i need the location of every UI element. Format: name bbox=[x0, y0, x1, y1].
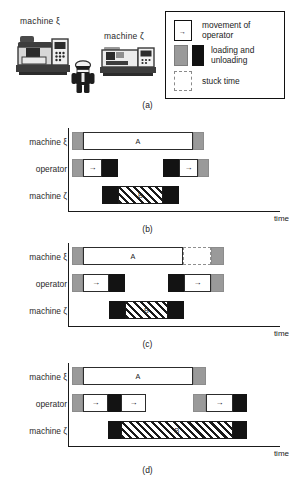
track-machine-zeta: B bbox=[72, 186, 287, 204]
x-axis-label: time bbox=[274, 449, 289, 458]
gantt-segment-label: A bbox=[84, 372, 192, 381]
gantt-segment-gray bbox=[72, 132, 83, 150]
track-machine-zeta: B bbox=[72, 301, 287, 319]
legend-label-movement-line1: movement of bbox=[202, 20, 250, 30]
x-axis-label: time bbox=[274, 329, 289, 338]
gantt-segment-gray bbox=[211, 274, 224, 292]
gantt-segment-black bbox=[108, 421, 121, 439]
gantt-segment-black bbox=[102, 159, 118, 177]
arrow-right-icon: → bbox=[84, 279, 108, 287]
arrow-right-icon: → bbox=[122, 399, 145, 407]
legend-swatch-movement: → bbox=[174, 20, 192, 41]
track-operator: →→ bbox=[72, 274, 287, 292]
gantt-segment-gray bbox=[193, 132, 204, 150]
legend-swatch-loading-gray bbox=[174, 45, 188, 66]
operator-figure-icon bbox=[70, 58, 96, 94]
row-label-operator: operator bbox=[36, 164, 67, 174]
gantt-segment-white: → bbox=[83, 394, 108, 412]
row-label-operator: operator bbox=[36, 399, 67, 409]
arrow-right-icon: → bbox=[180, 164, 197, 172]
gantt-segment-black bbox=[163, 186, 179, 204]
gantt-segment-gray bbox=[193, 394, 206, 412]
track-machine-xi: A bbox=[72, 132, 287, 150]
gantt-segment-label: B bbox=[126, 306, 167, 315]
gantt-segment-white: → bbox=[179, 159, 198, 177]
track-machine-xi: A bbox=[72, 247, 287, 265]
row-label-machine-xi: machine ξ bbox=[29, 137, 67, 147]
gantt-segment-hatch: B bbox=[125, 301, 168, 319]
gantt-segment-label: A bbox=[84, 252, 182, 261]
x-axis-line bbox=[68, 446, 280, 447]
panel-caption-a: (a) bbox=[0, 100, 295, 110]
gantt-segment-gray bbox=[72, 394, 83, 412]
arrow-right-icon: → bbox=[84, 399, 107, 407]
gantt-segment-gray bbox=[193, 367, 206, 385]
gantt-segment-white: → bbox=[206, 394, 233, 412]
row-label-machine-zeta: machine ζ bbox=[29, 426, 67, 436]
row-label-machine-zeta: machine ζ bbox=[29, 191, 67, 201]
track-operator: →→ bbox=[72, 159, 287, 177]
gantt-segment-hatch: B bbox=[121, 421, 233, 439]
gantt-segment-black bbox=[109, 274, 125, 292]
gantt-segment-black bbox=[168, 274, 184, 292]
gantt-segment-gray bbox=[72, 159, 83, 177]
gantt-segment-black bbox=[109, 301, 125, 319]
x-axis-label: time bbox=[274, 214, 289, 223]
lathe-machine-icon bbox=[100, 44, 162, 80]
row-label-operator: operator bbox=[36, 279, 67, 289]
arrow-right-icon: → bbox=[207, 399, 232, 407]
panel-b: time machine ξ operator machine ζ A →→ B… bbox=[0, 120, 295, 235]
gantt-segment-black bbox=[168, 301, 184, 319]
gantt-segment-black bbox=[233, 394, 247, 412]
legend-label-stuck: stuck time bbox=[202, 76, 240, 86]
x-axis-line bbox=[68, 326, 280, 327]
panel-caption-b: (b) bbox=[0, 224, 295, 234]
panel-caption-c: (c) bbox=[0, 339, 295, 349]
panel-caption-d: (d) bbox=[0, 465, 295, 475]
y-axis-line bbox=[68, 128, 69, 212]
gantt-segment-black bbox=[102, 186, 118, 204]
legend-swatch-stuck bbox=[174, 71, 192, 91]
gantt-segment-white: A bbox=[83, 132, 193, 150]
arrow-right-icon: → bbox=[179, 28, 186, 35]
y-axis-line bbox=[68, 243, 69, 327]
milling-machine-icon bbox=[16, 30, 78, 78]
row-label-machine-zeta: machine ζ bbox=[29, 306, 67, 316]
track-machine-zeta: B bbox=[72, 421, 287, 439]
legend-label-movement-line2: operator bbox=[202, 30, 250, 40]
track-operator: →→→ bbox=[72, 394, 287, 412]
gantt-segment-black bbox=[163, 159, 179, 177]
legend-label-loading: loading and unloading bbox=[211, 45, 254, 66]
arrow-right-icon: → bbox=[185, 279, 210, 287]
gantt-segment-hatch: B bbox=[118, 186, 163, 204]
panel-d: time machine ξ operator machine ζ A →→→ … bbox=[0, 355, 295, 495]
gantt-segment-stuck bbox=[183, 247, 211, 265]
gantt-segment-gray bbox=[198, 159, 209, 177]
gantt-segment-black bbox=[233, 421, 247, 439]
legend-swatch-unloading-black bbox=[192, 45, 204, 66]
gantt-segment-white: A bbox=[83, 367, 193, 385]
gantt-segment-white: A bbox=[83, 247, 183, 265]
arrow-right-icon: → bbox=[84, 164, 101, 172]
legend-label-loading-line1: loading and bbox=[211, 45, 254, 55]
gantt-segment-gray bbox=[211, 247, 224, 265]
figure-root: machine ξ machine ζ bbox=[0, 0, 295, 495]
gantt-segment-white: → bbox=[121, 394, 146, 412]
panel-c: time machine ξ operator machine ζ A →→ B… bbox=[0, 235, 295, 350]
legend: → movement of operator loading and unloa… bbox=[165, 11, 285, 99]
panel-a: machine ξ machine ζ bbox=[0, 0, 295, 118]
gantt-segment-white: → bbox=[184, 274, 211, 292]
x-axis-line bbox=[68, 211, 280, 212]
gantt-segment-black bbox=[108, 394, 121, 412]
machine-xi-caption: machine ξ bbox=[20, 16, 60, 26]
gantt-segment-label: A bbox=[84, 137, 192, 146]
gantt-segment-white: → bbox=[83, 274, 109, 292]
legend-label-movement: movement of operator bbox=[202, 20, 250, 41]
y-axis-line bbox=[68, 363, 69, 447]
gantt-segment-label: B bbox=[122, 426, 232, 435]
gantt-segment-gray bbox=[72, 247, 83, 265]
gantt-segment-gray bbox=[72, 274, 83, 292]
gantt-segment-white: → bbox=[83, 159, 102, 177]
gantt-segment-gray bbox=[72, 367, 83, 385]
gantt-segment-label: B bbox=[119, 191, 162, 200]
